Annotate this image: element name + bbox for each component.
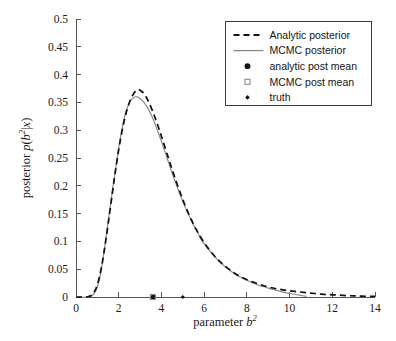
x-tick-label: 8 — [244, 302, 250, 314]
y-tick-label: 0.1 — [54, 235, 69, 247]
x-tick-label: 12 — [327, 302, 339, 314]
x-tick-label: 10 — [284, 302, 296, 314]
y-tick-label: 0.05 — [48, 263, 68, 275]
x-axis-title: parameter b2 — [193, 313, 257, 329]
x-tick-label: 4 — [159, 302, 165, 314]
legend-label: MCMC post mean — [270, 76, 355, 88]
x-tick-label: 6 — [201, 302, 207, 314]
x-tick-label: 2 — [116, 302, 122, 314]
y-tick-label: 0.5 — [54, 13, 69, 25]
legend-label: truth — [270, 91, 291, 103]
y-tick-label: 0.15 — [48, 208, 68, 220]
legend-label: MCMC posterior — [270, 44, 347, 56]
figure-container: 02468101214 00.050.10.150.20.250.30.350.… — [0, 0, 396, 341]
y-tick-label: 0.3 — [54, 124, 69, 136]
legend-label: analytic post mean — [270, 60, 358, 72]
y-tick-label: 0.2 — [54, 180, 69, 192]
legend-label: Analytic posterior — [270, 29, 351, 41]
x-tick-label: 14 — [369, 302, 381, 314]
y-tick-label: 0.25 — [48, 152, 68, 164]
posterior-plot: 02468101214 00.050.10.150.20.250.30.350.… — [0, 0, 396, 341]
y-tick-label: 0 — [62, 291, 68, 303]
legend-filled-circle-icon — [245, 63, 251, 69]
x-tick-label: 0 — [73, 302, 79, 314]
y-tick-label: 0.35 — [48, 96, 68, 108]
y-tick-label: 0.4 — [54, 69, 69, 81]
y-tick-label: 0.45 — [48, 41, 68, 53]
legend[interactable]: Analytic posteriorMCMC posterioranalytic… — [226, 22, 372, 106]
y-axis-title: posterior p(b2|x) — [17, 118, 33, 199]
